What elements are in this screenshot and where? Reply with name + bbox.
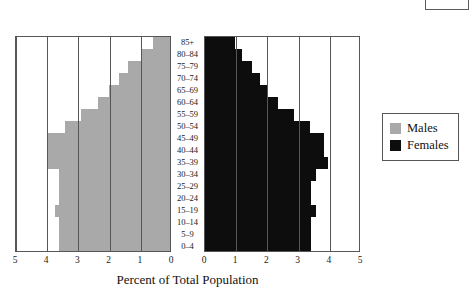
- x-axis-title: Percent of Total Population: [15, 272, 360, 288]
- gridline: [267, 37, 268, 251]
- males-x-axis-ticks: 543210: [15, 255, 171, 269]
- bar-female: [205, 37, 235, 49]
- x-tick-label: 0: [196, 255, 212, 265]
- bar-female: [205, 217, 311, 229]
- x-tick-label: 4: [38, 255, 54, 265]
- males-bar-group: [16, 37, 170, 251]
- age-group-label: 20–24: [171, 192, 204, 204]
- age-group-label: 5–9: [171, 228, 204, 240]
- bar-female: [205, 145, 324, 157]
- age-group-label: 30–34: [171, 168, 204, 180]
- age-group-label: 85+: [171, 36, 204, 48]
- x-tick-label: 2: [101, 255, 117, 265]
- legend-label-females: Females: [407, 138, 449, 153]
- bar-female: [205, 229, 311, 241]
- population-pyramid-chart: 0–45–910–1415–1920–2425–2930–3435–3940–4…: [0, 0, 475, 305]
- age-group-label: 0–4: [171, 240, 204, 252]
- legend-swatch-females: [390, 140, 401, 151]
- age-group-label: 75–79: [171, 60, 204, 72]
- age-group-label: 40–44: [171, 144, 204, 156]
- x-tick-label: 4: [321, 255, 337, 265]
- gridline: [141, 37, 142, 251]
- age-group-label: 70–74: [171, 72, 204, 84]
- age-group-label: 15–19: [171, 204, 204, 216]
- males-plot-panel: [15, 36, 171, 252]
- age-group-label: 10–14: [171, 216, 204, 228]
- age-group-label: 50–54: [171, 120, 204, 132]
- gridline: [330, 37, 331, 251]
- bar-male: [109, 85, 170, 97]
- x-tick-label: 5: [352, 255, 368, 265]
- females-x-axis-ticks: 012345: [204, 255, 360, 269]
- females-plot-panel: [204, 36, 360, 252]
- x-tick-label: 2: [258, 255, 274, 265]
- bar-male: [55, 205, 170, 217]
- bar-male: [153, 37, 170, 49]
- bar-male: [81, 109, 170, 121]
- bar-female: [205, 133, 324, 145]
- bar-male: [59, 229, 170, 241]
- age-group-axis: 0–45–910–1415–1920–2425–2930–3435–3940–4…: [171, 36, 204, 252]
- x-tick-label: 3: [69, 255, 85, 265]
- bar-male: [59, 193, 170, 205]
- chart-legend: Males Females: [382, 113, 459, 161]
- bar-female: [205, 121, 310, 133]
- bar-male: [59, 169, 170, 181]
- legend-item-males: Males: [390, 120, 449, 137]
- gridline: [236, 37, 237, 251]
- bar-female: [205, 109, 294, 121]
- bar-male: [119, 73, 170, 85]
- bar-male: [59, 241, 170, 252]
- age-group-label: 60–64: [171, 96, 204, 108]
- x-tick-label: 1: [227, 255, 243, 265]
- bar-male: [65, 121, 170, 133]
- gridline: [299, 37, 300, 251]
- bar-male: [59, 217, 170, 229]
- age-group-label: 35–39: [171, 156, 204, 168]
- bar-male: [59, 181, 170, 193]
- legend-swatch-males: [390, 123, 401, 134]
- bar-male: [128, 61, 170, 73]
- age-group-label: 65–69: [171, 84, 204, 96]
- bar-female: [205, 241, 311, 252]
- age-group-label: 80–84: [171, 48, 204, 60]
- bar-female: [205, 181, 311, 193]
- x-tick-label: 3: [290, 255, 306, 265]
- bar-male: [142, 49, 170, 61]
- legend-label-males: Males: [407, 121, 438, 136]
- bar-female: [205, 61, 252, 73]
- age-group-label: 45–49: [171, 132, 204, 144]
- age-group-label: 55–59: [171, 108, 204, 120]
- legend-item-females: Females: [390, 137, 449, 154]
- corner-frame-fragment: [425, 0, 469, 10]
- bar-female: [205, 193, 311, 205]
- gridline: [78, 37, 79, 251]
- gridline: [110, 37, 111, 251]
- age-group-label: 25–29: [171, 180, 204, 192]
- females-bar-group: [205, 37, 359, 251]
- x-tick-label: 1: [132, 255, 148, 265]
- gridline: [47, 37, 48, 251]
- x-tick-label: 0: [163, 255, 179, 265]
- bar-female: [205, 73, 260, 85]
- x-tick-label: 5: [7, 255, 23, 265]
